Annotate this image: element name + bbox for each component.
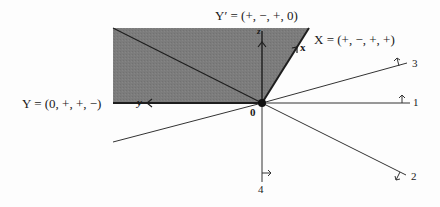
origin-point bbox=[258, 99, 266, 107]
shaded-cone-region bbox=[113, 28, 309, 103]
label-x-axis: x bbox=[300, 42, 306, 53]
cone-diagram: Y′ = (+, −, +, 0) X = (+, −, +, +) Y = (… bbox=[0, 0, 440, 207]
label-ray-2: 2 bbox=[411, 171, 417, 182]
label-ray-1: 1 bbox=[413, 97, 419, 108]
label-x-vector: X = (+, −, +, +) bbox=[314, 33, 395, 46]
label-ray-3: 3 bbox=[412, 58, 418, 69]
label-y-prime: Y′ = (+, −, +, 0) bbox=[215, 9, 298, 22]
ray-2-line bbox=[262, 103, 406, 175]
label-ray-4: 4 bbox=[258, 184, 264, 195]
ray-lower-left-line bbox=[113, 103, 262, 142]
label-y-axis: y bbox=[137, 97, 142, 108]
label-y-vector: Y = (0, +, +, −) bbox=[22, 97, 101, 110]
label-origin: 0 bbox=[250, 107, 256, 118]
label-z-axis: z bbox=[257, 27, 261, 36]
